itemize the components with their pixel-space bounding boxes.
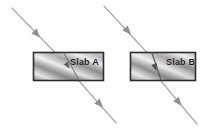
refraction-diagram: Slab A Slab B <box>0 0 208 128</box>
slab-a-label: Slab A <box>70 58 99 67</box>
slab-b-label: Slab B <box>166 58 195 67</box>
